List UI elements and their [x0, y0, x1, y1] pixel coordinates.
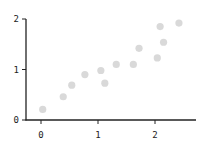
data-point: [135, 45, 142, 52]
x-ticks: 012: [38, 120, 157, 140]
data-point: [39, 106, 46, 113]
data-point: [113, 61, 120, 68]
y-tick-label: 1: [14, 65, 19, 75]
data-point: [160, 39, 167, 46]
data-point: [68, 82, 75, 89]
x-tick-label: 1: [95, 130, 100, 140]
y-tick-label: 2: [14, 14, 19, 24]
data-point: [97, 67, 104, 74]
scatter-chart: 012 012: [0, 0, 205, 143]
data-points: [39, 19, 182, 113]
y-ticks: 012: [14, 14, 26, 125]
y-tick-label: 0: [14, 115, 19, 125]
x-tick-label: 2: [152, 130, 157, 140]
data-point: [60, 93, 67, 100]
data-point: [154, 54, 161, 61]
data-point: [157, 23, 164, 30]
data-point: [130, 61, 137, 68]
data-point: [81, 71, 88, 78]
data-point: [175, 19, 182, 26]
data-point: [101, 80, 108, 87]
x-tick-label: 0: [38, 130, 43, 140]
